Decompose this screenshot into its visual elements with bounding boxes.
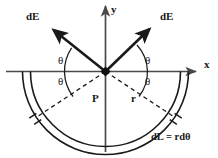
- x-axis-label: x: [204, 59, 210, 70]
- point-P-label: P: [92, 93, 99, 104]
- dL-element-label: dL = rdθ: [151, 132, 190, 143]
- theta-label-upper-right: θ: [145, 55, 150, 66]
- theta-label-lower-right: θ: [145, 76, 150, 87]
- dE-label-right: dE: [160, 11, 173, 22]
- dE-vectors-group: [54, 29, 150, 72]
- dE-vector-right: [106, 29, 150, 72]
- y-axis-label: y: [111, 4, 117, 15]
- theta-label-lower-left: θ: [58, 76, 63, 87]
- theta-label-upper-left: θ: [58, 55, 63, 66]
- radius-r-label: r: [131, 93, 136, 104]
- dE-label-left: dE: [26, 11, 39, 22]
- physics-diagram-figure: dE dE y x θ θ θ θ P r dL = rdθ: [0, 0, 218, 158]
